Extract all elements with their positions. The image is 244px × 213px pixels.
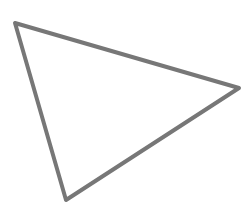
diagram-canvas — [0, 0, 244, 213]
triangle-shape — [15, 23, 239, 200]
triangle-diagram — [0, 0, 244, 213]
